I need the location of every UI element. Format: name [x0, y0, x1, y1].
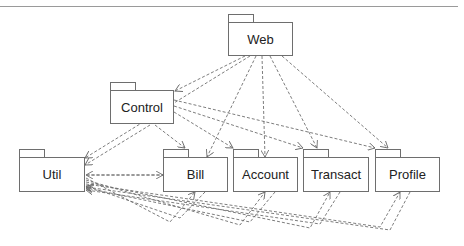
package-tab [375, 149, 401, 157]
edge-web-bill [207, 56, 256, 157]
edge-transact-util-low [86, 190, 340, 224]
package-body: Profile [375, 157, 440, 192]
package-tab [228, 14, 254, 22]
edge-control-account [174, 112, 233, 148]
package-tab [163, 149, 189, 157]
package-label: Web [247, 32, 274, 47]
edge-web-control [175, 56, 245, 91]
edge-web-profile [282, 56, 388, 148]
package-body: Web [228, 22, 293, 56]
package-body: Transact [303, 157, 369, 192]
package-label: Transact [311, 167, 361, 182]
package-tab [233, 149, 259, 157]
edge-web-account [262, 56, 265, 157]
package-label: Account [242, 167, 289, 182]
edge-control-transact [174, 106, 303, 148]
package-tab [303, 149, 329, 157]
package-label: Bill [187, 167, 204, 182]
package-body: Control [110, 90, 174, 124]
edge-control-util [85, 125, 150, 165]
edge-control-profile [174, 100, 375, 148]
package-tab [19, 149, 45, 157]
package-body: Bill [163, 157, 228, 192]
package-label: Util [43, 167, 62, 182]
edge-profile-util-low [86, 187, 410, 230]
package-label: Profile [389, 167, 426, 182]
edge-control-bill [155, 125, 185, 148]
package-body: Util [19, 157, 85, 192]
package-label: Control [121, 100, 163, 115]
package-tab [110, 82, 136, 90]
edge-web-transact [270, 56, 317, 148]
package-body: Account [233, 157, 298, 192]
